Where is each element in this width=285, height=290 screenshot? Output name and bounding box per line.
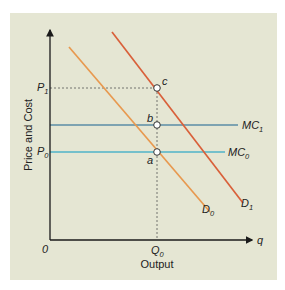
d1-line	[112, 32, 243, 203]
d1-label: D1	[241, 197, 253, 212]
origin-label: 0	[42, 243, 49, 255]
p1-label: P1	[37, 81, 49, 96]
point-c-label: c	[162, 75, 168, 87]
y-axis-title: Price and Cost	[22, 99, 34, 171]
q0-label: Q0	[151, 244, 165, 259]
mc1-label: MC1	[242, 119, 263, 134]
mc0-label: MC0	[228, 146, 250, 161]
chart-svg: c b a P1 P0 MC1 MC0 D0 D1 0 Q0 q Output …	[0, 0, 285, 290]
point-c	[154, 85, 161, 92]
d0-line	[69, 47, 210, 212]
x-axis-title: Output	[140, 258, 173, 270]
point-b	[154, 122, 161, 129]
q-axis-label: q	[257, 234, 264, 246]
p0-label: P0	[37, 145, 49, 160]
d0-label: D0	[202, 203, 215, 218]
point-a-label: a	[147, 154, 153, 166]
point-b-label: b	[147, 112, 153, 124]
point-a	[154, 149, 161, 156]
